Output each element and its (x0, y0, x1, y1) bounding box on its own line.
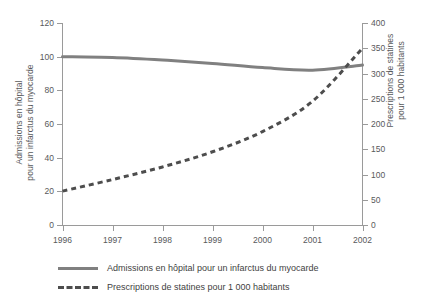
plot-area: 020406080100120 050100150200250300350400… (0, 0, 424, 302)
series-line-admissions (63, 57, 363, 71)
x-tick-label: 1996 (53, 235, 72, 245)
left-axis-ticks: 020406080100120 (40, 18, 63, 230)
left-tick-label: 0 (49, 220, 54, 230)
legend-label-prescriptions: Prescriptions de statines pour 1 000 hab… (107, 282, 290, 292)
left-tick-label: 60 (45, 119, 55, 129)
left-tick-label: 120 (40, 18, 54, 28)
left-tick-label: 80 (45, 85, 55, 95)
left-tick-label: 100 (40, 52, 54, 62)
right-tick-label: 0 (371, 220, 376, 230)
right-tick-label: 350 (371, 43, 385, 53)
x-tick-label: 1997 (103, 235, 122, 245)
chart-legend: Admissions en hôpital pour un infarctus … (58, 258, 418, 296)
x-tick-label: 2001 (303, 235, 322, 245)
legend-item-admissions: Admissions en hôpital pour un infarctus … (58, 258, 418, 277)
left-tick-label: 20 (45, 186, 55, 196)
x-tick-label: 2002 (353, 235, 372, 245)
right-tick-label: 200 (371, 119, 385, 129)
x-tick-label: 1999 (203, 235, 222, 245)
chart-container: Admissions en hôpital pour un infarctus … (0, 0, 424, 302)
right-tick-label: 250 (371, 94, 385, 104)
right-tick-label: 50 (371, 195, 381, 205)
right-tick-label: 400 (371, 18, 385, 28)
left-tick-label: 40 (45, 153, 55, 163)
right-axis-ticks: 050100150200250300350400 (363, 18, 386, 230)
right-tick-label: 100 (371, 170, 385, 180)
legend-item-prescriptions: Prescriptions de statines pour 1 000 hab… (58, 277, 418, 296)
right-tick-label: 150 (371, 144, 385, 154)
legend-swatch-solid-icon (58, 263, 98, 273)
legend-swatch-dashed-icon (58, 282, 98, 292)
legend-label-admissions: Admissions en hôpital pour un infarctus … (107, 263, 319, 273)
right-tick-label: 300 (371, 69, 385, 79)
x-axis-ticks: 1996199719981999200020012002 (53, 226, 372, 246)
x-tick-label: 1998 (153, 235, 172, 245)
x-tick-label: 2000 (253, 235, 272, 245)
